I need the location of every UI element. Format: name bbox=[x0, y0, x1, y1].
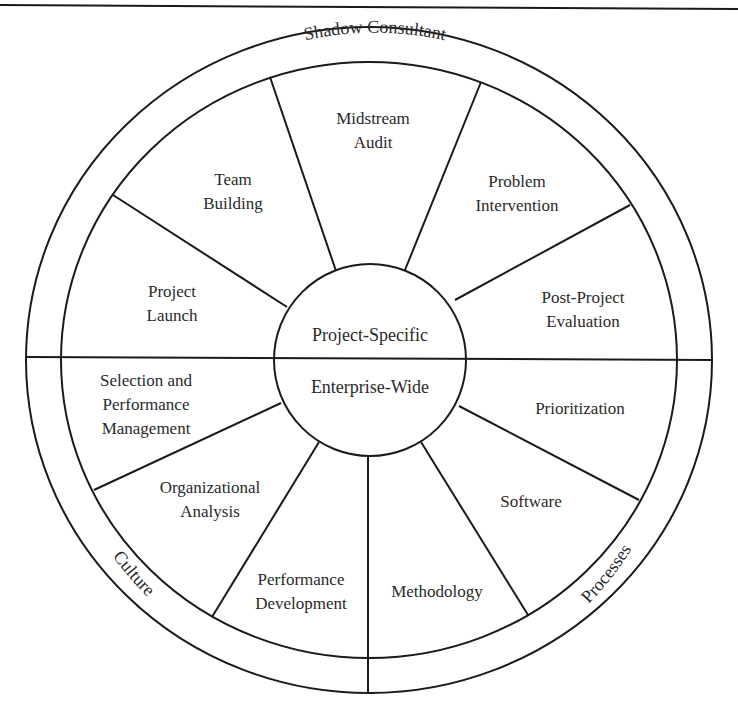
svg-text:Development: Development bbox=[255, 594, 347, 613]
ring-label-shadow-consultant: Shadow Consultant bbox=[302, 17, 448, 45]
segment-selection-performance-management: Selection and Performance Management bbox=[100, 371, 193, 438]
spoke-selection-organizational bbox=[94, 403, 281, 490]
svg-text:Project: Project bbox=[148, 282, 196, 301]
svg-text:Management: Management bbox=[102, 419, 191, 438]
svg-text:Post-Project: Post-Project bbox=[541, 288, 624, 307]
svg-text:Selection and: Selection and bbox=[100, 371, 193, 390]
segment-organizational-analysis: Organizational Analysis bbox=[160, 478, 261, 521]
spoke-software-prioritization bbox=[459, 406, 639, 500]
svg-text:Launch: Launch bbox=[147, 306, 198, 325]
core-label-project-specific: Project-Specific bbox=[312, 325, 428, 345]
segment-problem-intervention: Problem Intervention bbox=[475, 172, 559, 215]
segment-performance-development: Performance Development bbox=[255, 570, 347, 613]
svg-text:Organizational: Organizational bbox=[160, 478, 261, 497]
spoke-problem-postproject bbox=[455, 205, 630, 300]
segment-midstream-audit: Midstream Audit bbox=[336, 109, 410, 152]
header-rule bbox=[0, 5, 738, 9]
core-label-enterprise-wide: Enterprise-Wide bbox=[311, 377, 429, 397]
segment-prioritization: Prioritization bbox=[535, 399, 625, 418]
core-circle bbox=[274, 264, 466, 456]
svg-text:Building: Building bbox=[203, 194, 263, 213]
svg-text:Software: Software bbox=[500, 492, 561, 511]
spoke-organizational-performance bbox=[212, 442, 319, 617]
segment-project-launch: Project Launch bbox=[147, 282, 198, 325]
svg-text:Evaluation: Evaluation bbox=[546, 312, 620, 331]
svg-text:Midstream: Midstream bbox=[336, 109, 410, 128]
svg-text:Intervention: Intervention bbox=[475, 196, 559, 215]
svg-text:Analysis: Analysis bbox=[180, 502, 240, 521]
segment-software: Software bbox=[500, 492, 561, 511]
ring-label-culture: Culture bbox=[109, 547, 159, 600]
segment-post-project-evaluation: Post-Project Evaluation bbox=[541, 288, 624, 331]
segment-methodology: Methodology bbox=[391, 582, 483, 601]
svg-text:Methodology: Methodology bbox=[391, 582, 483, 601]
svg-text:Problem: Problem bbox=[488, 172, 546, 191]
svg-text:Audit: Audit bbox=[354, 133, 393, 152]
svg-text:Team: Team bbox=[214, 170, 252, 189]
svg-text:Performance: Performance bbox=[258, 570, 345, 589]
segment-team-building: Team Building bbox=[203, 170, 263, 213]
wheel-diagram: Shadow Consultant Culture Processes Proj… bbox=[0, 0, 738, 704]
spoke-midstream-problem bbox=[405, 82, 481, 270]
svg-text:Performance: Performance bbox=[103, 395, 190, 414]
svg-text:Prioritization: Prioritization bbox=[535, 399, 625, 418]
spoke-team-midstream bbox=[270, 77, 336, 271]
horizontal-divider bbox=[27, 357, 712, 360]
